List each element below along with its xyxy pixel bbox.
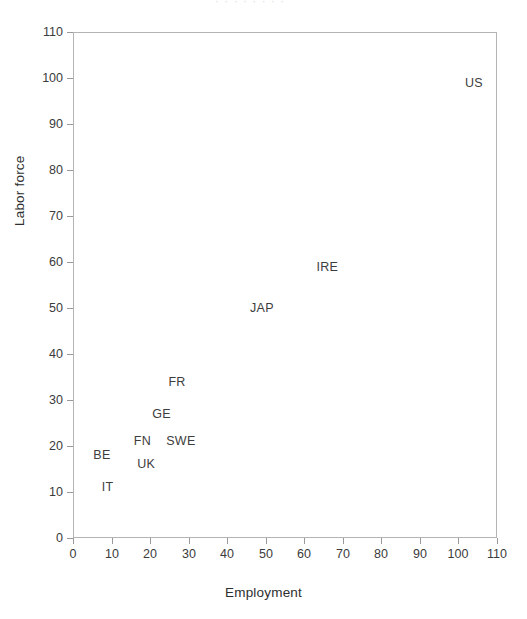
data-point-ire: IRE: [317, 260, 339, 273]
y-axis-tick: [67, 354, 73, 355]
x-axis-tick: [112, 538, 113, 544]
data-point-jap: JAP: [250, 302, 274, 315]
y-axis-tick-label: 80: [49, 164, 63, 177]
y-axis-tick: [67, 446, 73, 447]
x-axis-tick-label: 40: [220, 548, 234, 561]
y-axis-tick: [67, 78, 73, 79]
data-point-ge: GE: [152, 408, 171, 421]
data-point-swe: SWE: [166, 435, 195, 448]
data-point-us: US: [465, 76, 483, 89]
x-axis-tick: [420, 538, 421, 544]
x-axis-tick: [458, 538, 459, 544]
y-axis-tick-label: 40: [49, 348, 63, 361]
x-axis-tick-label: 110: [487, 548, 507, 561]
x-axis-tick-label: 100: [448, 548, 469, 561]
cropped-title-remnant: · · · · · · · ·: [215, 0, 445, 4]
y-axis-tick: [67, 492, 73, 493]
x-axis-tick-label: 50: [259, 548, 273, 561]
y-axis-title: Labor force: [12, 156, 27, 227]
x-axis-tick: [73, 538, 74, 544]
x-axis-title: Employment: [0, 585, 527, 600]
y-axis-tick-label: 70: [49, 210, 63, 223]
x-axis-tick: [304, 538, 305, 544]
x-axis-tick: [343, 538, 344, 544]
x-axis-tick: [227, 538, 228, 544]
y-axis-tick-label: 90: [49, 118, 63, 131]
y-axis-tick-label: 0: [56, 532, 63, 545]
x-axis-tick: [150, 538, 151, 544]
x-axis-tick-label: 30: [182, 548, 196, 561]
scatter-chart-figure: · · · · · · · · 010203040506070809010011…: [0, 0, 527, 619]
x-axis-tick-label: 20: [143, 548, 157, 561]
y-axis-tick: [67, 216, 73, 217]
y-axis-tick: [67, 400, 73, 401]
y-axis-tick: [67, 308, 73, 309]
y-axis-tick-label: 100: [42, 72, 63, 85]
x-axis-tick-label: 10: [105, 548, 119, 561]
x-axis-tick: [189, 538, 190, 544]
data-point-it: IT: [102, 481, 114, 494]
y-axis-tick-label: 10: [49, 486, 63, 499]
y-axis-tick-label: 60: [49, 256, 63, 269]
y-axis-tick: [67, 124, 73, 125]
x-axis-tick-label: 0: [70, 548, 77, 561]
y-axis-tick: [67, 32, 73, 33]
data-point-fn: FN: [134, 435, 151, 448]
y-axis-tick-label: 20: [49, 440, 63, 453]
y-axis-tick: [67, 262, 73, 263]
data-point-uk: UK: [137, 458, 155, 471]
data-point-be: BE: [93, 449, 110, 462]
x-axis-tick-label: 70: [336, 548, 350, 561]
y-axis-tick: [67, 170, 73, 171]
y-axis-tick-label: 110: [43, 26, 63, 39]
x-axis-tick-label: 90: [413, 548, 427, 561]
data-point-fr: FR: [168, 375, 185, 388]
x-axis-tick: [497, 538, 498, 544]
x-axis-tick: [381, 538, 382, 544]
x-axis-tick: [266, 538, 267, 544]
y-axis-tick-label: 30: [49, 394, 63, 407]
x-axis-tick-label: 80: [374, 548, 388, 561]
y-axis-tick-label: 50: [49, 302, 63, 315]
x-axis-tick-label: 60: [297, 548, 311, 561]
